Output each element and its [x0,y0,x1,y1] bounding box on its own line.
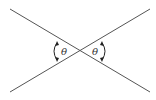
right-angle-arc-icon [100,41,105,62]
left-angle-arc-icon [54,41,59,62]
vertical-angles-diagram: θ θ [0,0,156,100]
right-angle-label: θ [92,46,98,57]
left-angle-label: θ [61,46,67,57]
